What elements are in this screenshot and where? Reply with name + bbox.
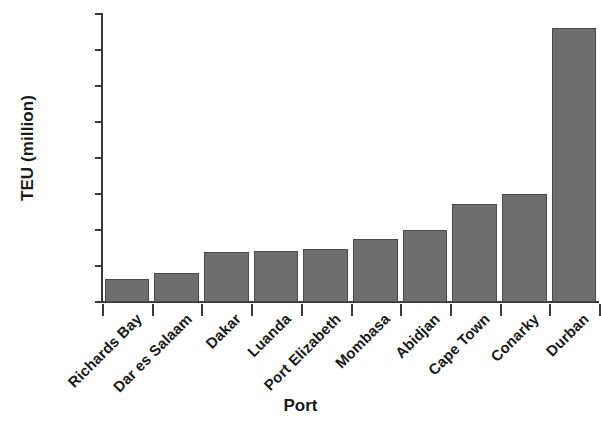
- x-tick: [102, 304, 104, 316]
- x-tick: [500, 304, 502, 316]
- y-tick: [95, 193, 102, 195]
- plot-area: [102, 14, 599, 302]
- bar: [204, 252, 249, 302]
- bar: [254, 251, 299, 302]
- bar: [403, 230, 448, 302]
- bar: [353, 239, 398, 302]
- x-tick: [152, 304, 154, 316]
- y-tick: [95, 13, 102, 15]
- x-tick: [400, 304, 402, 316]
- y-tick: [95, 121, 102, 123]
- bar: [452, 204, 497, 302]
- x-tick: [450, 304, 452, 316]
- y-tick: [95, 301, 102, 303]
- y-tick: [95, 49, 102, 51]
- y-tick: [95, 85, 102, 87]
- y-tick: [95, 157, 102, 159]
- x-tick: [351, 304, 353, 316]
- bar: [502, 194, 547, 302]
- bar: [105, 279, 150, 302]
- y-tick: [95, 265, 102, 267]
- bar-chart-figure: TEU (million) 00.250.500.751.001.251.501…: [0, 0, 601, 427]
- x-tick: [201, 304, 203, 316]
- x-tick: [251, 304, 253, 316]
- bar: [154, 273, 199, 302]
- bar: [303, 249, 348, 302]
- x-tick: [301, 304, 303, 316]
- y-axis-title: TEU (million): [18, 58, 38, 238]
- x-axis-title: Port: [0, 396, 601, 416]
- x-tick: [549, 304, 551, 316]
- y-tick: [95, 229, 102, 231]
- bar: [552, 28, 597, 302]
